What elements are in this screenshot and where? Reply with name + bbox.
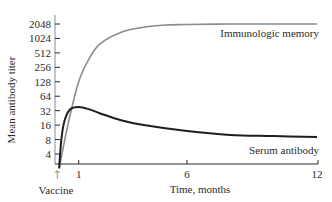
y-tick-label: 32 xyxy=(40,105,51,117)
serum-antibody-curve xyxy=(59,107,317,168)
y-tick-label: 16 xyxy=(40,119,52,131)
y-tick-label: 4 xyxy=(46,148,52,160)
y-tick-label: 8 xyxy=(46,134,52,146)
x-axis-ticks: 1612 xyxy=(76,160,323,180)
immunologic-memory-label: Immunologic memory xyxy=(220,27,319,39)
y-tick-label: 128 xyxy=(35,76,52,88)
x-tick-label: 6 xyxy=(184,168,190,180)
serum-antibody-label: Serum antibody xyxy=(249,144,319,156)
x-tick-label: 1 xyxy=(76,168,82,180)
y-tick-label: 1024 xyxy=(29,32,52,44)
y-axis-label: Mean antibody titer xyxy=(5,56,17,143)
y-tick-label: 256 xyxy=(35,61,52,73)
y-tick-label: 2048 xyxy=(29,18,52,30)
y-tick-label: 64 xyxy=(40,90,52,102)
vaccine-label: Vaccine xyxy=(39,184,74,196)
vaccine-arrow-icon: ↑ xyxy=(52,168,62,182)
x-axis-label: Time, months xyxy=(170,183,231,195)
antibody-titer-chart: Mean antibody titer 48163264128256512102… xyxy=(0,0,332,202)
y-tick-label: 512 xyxy=(35,47,52,59)
x-tick-label: 12 xyxy=(312,168,323,180)
